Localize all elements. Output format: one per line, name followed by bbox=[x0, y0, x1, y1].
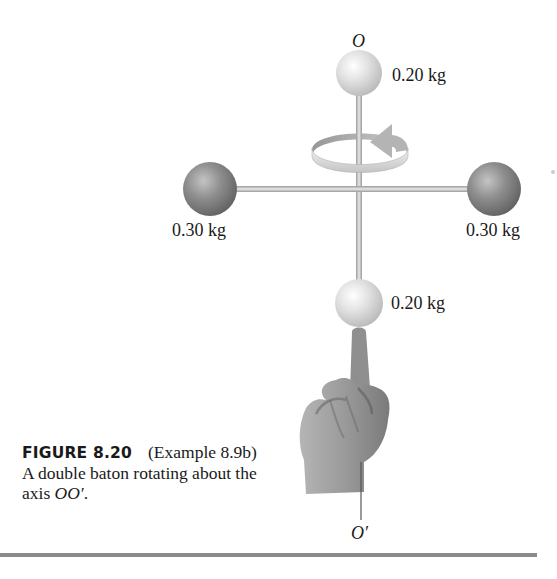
vertical-rod bbox=[356, 78, 362, 290]
caption-axis-ref: OO′ bbox=[55, 483, 84, 503]
caption-period: . bbox=[84, 483, 88, 503]
figure-caption: FIGURE 8.20(Example 8.9b) A double baton… bbox=[22, 442, 262, 503]
section-divider bbox=[0, 553, 537, 557]
right-mass-label: 0.30 kg bbox=[466, 221, 520, 239]
horizontal-rod bbox=[236, 186, 468, 192]
axis-bottom-label: O′ bbox=[351, 524, 368, 542]
axis-top-label: O bbox=[352, 32, 365, 50]
figure-number: FIGURE 8.20 bbox=[22, 444, 132, 462]
top-mass-sphere bbox=[336, 50, 382, 96]
left-mass-sphere bbox=[183, 162, 237, 216]
right-mass-sphere bbox=[467, 162, 521, 216]
left-mass-label: 0.30 kg bbox=[172, 221, 226, 239]
pointing-hand-icon bbox=[300, 328, 390, 495]
bottom-mass-label: 0.20 kg bbox=[391, 294, 445, 312]
edge-mark bbox=[551, 170, 555, 174]
bottom-mass-sphere bbox=[335, 279, 383, 327]
top-mass-label: 0.20 kg bbox=[392, 66, 446, 84]
